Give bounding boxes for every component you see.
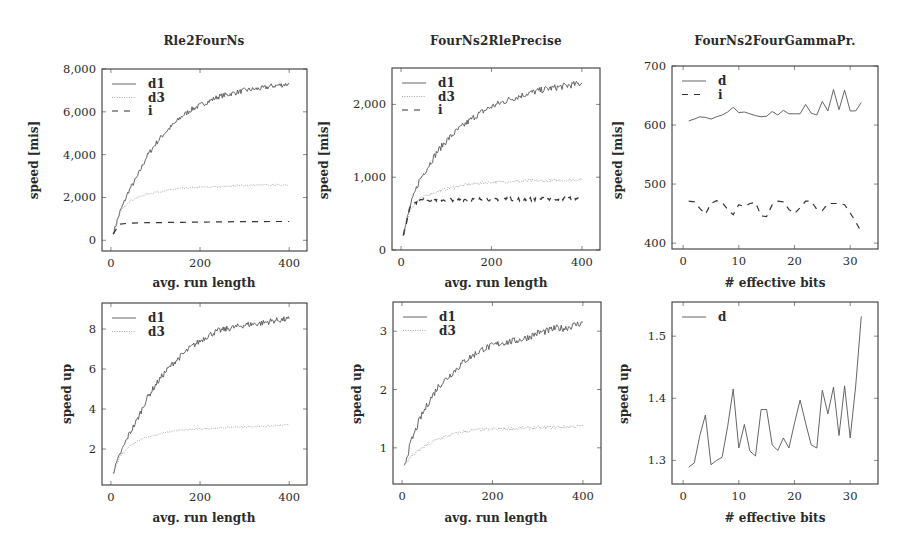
x-tick-label: 200	[481, 255, 503, 269]
legend-label-d1: d1	[439, 310, 456, 324]
legend-label-d: d	[718, 310, 727, 324]
chart-title: FourNs2RlePrecise	[430, 34, 562, 48]
x-axis-label: avg. run length	[444, 511, 547, 525]
y-axis-label: speed [mis]	[317, 121, 331, 199]
legend-label-d3: d3	[439, 324, 456, 338]
y-tick-label: 4	[89, 402, 96, 416]
legend-label-i: i	[718, 88, 723, 102]
legend-label-d3: d3	[148, 325, 165, 339]
x-tick-label: 0	[398, 489, 405, 503]
x-tick-label: 0	[397, 255, 404, 269]
y-tick-label: 8,000	[63, 62, 96, 76]
x-axis-label: avg. run length	[152, 511, 255, 525]
x-axis-label: # effective bits	[725, 276, 826, 290]
y-tick-label: 0	[379, 243, 386, 257]
legend-label-d1: d1	[148, 77, 165, 91]
y-tick-label: 1.5	[648, 329, 666, 343]
x-tick-label: 0	[107, 256, 114, 270]
chart-title: Rle2FourNs	[163, 34, 244, 48]
x-tick-label: 200	[482, 489, 504, 503]
figure: Rle2FourNs avg. run length speed [mis] 0…	[0, 0, 911, 555]
x-tick-label: 400	[278, 256, 300, 270]
legend-label-d: d	[718, 74, 727, 88]
x-tick-label: 30	[843, 254, 858, 268]
x-tick-label: 400	[278, 490, 300, 504]
y-tick-label: 8	[89, 322, 96, 336]
x-tick-label: 200	[189, 256, 211, 270]
legend-label-d1: d1	[438, 76, 455, 90]
y-axis-label: speed up	[617, 364, 631, 424]
x-tick-label: 200	[189, 490, 211, 504]
y-tick-label: 4,000	[63, 148, 96, 162]
x-tick-label: 0	[679, 489, 686, 503]
y-tick-label: 1.3	[648, 453, 666, 467]
legend-label-i: i	[148, 104, 153, 118]
x-tick-label: 10	[731, 489, 746, 503]
y-tick-label: 1.4	[648, 391, 666, 405]
y-axis-label: speed [mis]	[611, 121, 625, 199]
legend-label-i: i	[438, 103, 443, 117]
y-tick-label: 500	[644, 177, 666, 191]
y-tick-label: 600	[644, 118, 666, 132]
x-tick-label: 0	[679, 254, 686, 268]
x-tick-label: 400	[572, 489, 594, 503]
y-tick-label: 6,000	[63, 105, 96, 119]
y-tick-label: 0	[89, 233, 96, 247]
y-tick-label: 1,000	[353, 170, 386, 184]
x-tick-label: 0	[107, 490, 114, 504]
y-axis-label: speed up	[350, 364, 364, 424]
x-tick-label: 30	[843, 489, 858, 503]
legend-label-d1: d1	[148, 311, 165, 325]
y-tick-label: 2,000	[353, 97, 386, 111]
legend-label-d3: d3	[438, 90, 455, 104]
y-tick-label: 2	[380, 383, 387, 397]
y-tick-label: 700	[644, 59, 666, 73]
x-tick-label: 400	[571, 255, 593, 269]
y-tick-label: 2,000	[63, 190, 96, 204]
y-tick-label: 400	[644, 236, 666, 250]
y-tick-label: 1	[380, 441, 387, 455]
y-axis-label: speed up	[60, 364, 74, 424]
chart-title: FourNs2FourGammaPr.	[694, 34, 855, 48]
x-tick-label: 10	[731, 254, 746, 268]
x-axis-label: avg. run length	[152, 276, 255, 290]
y-tick-label: 6	[89, 362, 96, 376]
y-tick-label: 2	[89, 442, 96, 456]
x-tick-label: 20	[787, 254, 802, 268]
x-tick-label: 20	[787, 489, 802, 503]
legend-label-d3: d3	[148, 91, 165, 105]
y-tick-label: 3	[380, 324, 387, 338]
y-axis-label: speed [mis]	[27, 121, 41, 199]
x-axis-label: # effective bits	[725, 511, 826, 525]
x-axis-label: avg. run length	[444, 276, 547, 290]
